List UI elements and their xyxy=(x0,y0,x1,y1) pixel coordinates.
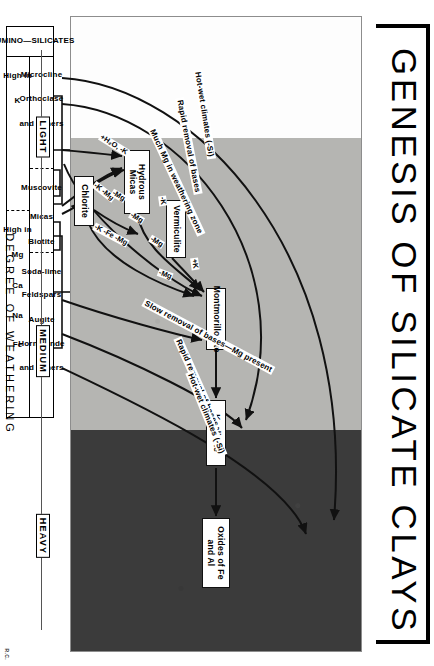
label-text: -K xyxy=(158,196,168,205)
mineral-label: Hydrous Micas xyxy=(128,153,146,211)
mineral-box-hydrous-micas: Hydrous Micas xyxy=(124,150,150,214)
weathering-scale: LIGHT MEDIUM HEAVY DEGREE OF WEATHERING xyxy=(0,16,42,652)
scale-step-label: HEAVY xyxy=(38,518,48,554)
band-medium xyxy=(70,138,362,430)
figure-canvas: GENESIS OF SILICATE CLAYS xyxy=(0,0,434,666)
scale-step-medium: MEDIUM xyxy=(36,325,50,377)
credit-mark: R.C. xyxy=(4,648,10,660)
mineral-label: Chlorite xyxy=(79,184,88,218)
band-light xyxy=(70,16,362,138)
figure-page: GENESIS OF SILICATE CLAYS xyxy=(0,0,434,666)
label-text: +K xyxy=(190,258,200,269)
scale-step-light: LIGHT xyxy=(36,117,50,158)
figure-title-block: GENESIS OF SILICATE CLAYS xyxy=(372,16,428,650)
mineral-label: Oxides of Fe and Al xyxy=(206,521,226,585)
scale-caption: DEGREE OF WEATHERING xyxy=(4,16,16,652)
mineral-label: Vermiculite xyxy=(171,205,180,253)
mineral-box-oxides: Oxides of Fe and Al xyxy=(202,518,230,588)
page-title: GENESIS OF SILICATE CLAYS xyxy=(384,48,424,634)
scale-step-label: LIGHT xyxy=(38,121,48,154)
mineral-box-chlorite: Chlorite xyxy=(74,176,94,226)
scale-step-label: MEDIUM xyxy=(38,329,48,373)
ion-label-plus-k-a: +K xyxy=(190,257,199,270)
scale-step-heavy: HEAVY xyxy=(36,514,50,558)
ion-label-minus-k-a: -K xyxy=(158,195,167,206)
